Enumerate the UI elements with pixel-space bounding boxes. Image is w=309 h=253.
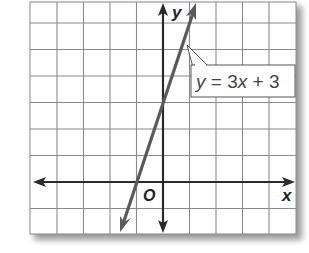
equation-rest: + 3 [247,71,279,92]
x-axis-label: x [281,186,293,205]
origin-label: O [143,187,156,204]
equation-label: y = 3x + 3 [194,71,279,92]
coordinate-plane: y x O y = 3x + 3 [0,0,309,253]
y-axis-label: y [171,3,183,22]
equation-eq: = 3 [206,71,238,92]
